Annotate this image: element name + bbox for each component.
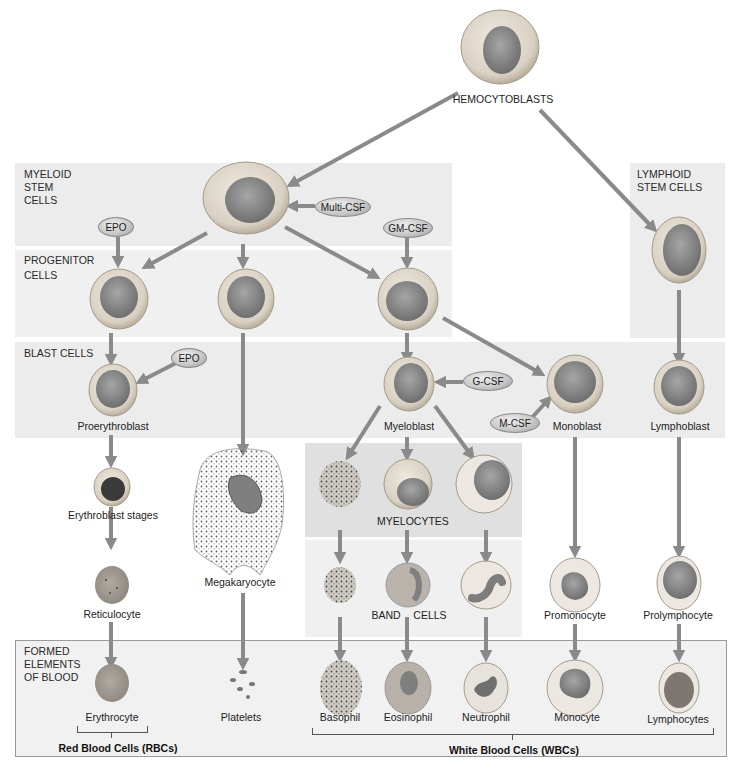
reticulocyte-label: Reticulocyte <box>83 608 140 620</box>
promonocyte-label: Promonocyte <box>544 609 606 621</box>
blast-cells-label: BLAST CELLS <box>24 347 93 360</box>
epo-progenitor-factor: EPO <box>98 217 134 237</box>
monoblast-label: Monoblast <box>553 420 601 432</box>
band-cells-label-left: BAND <box>371 609 400 621</box>
megakaryocyte-label: Megakaryocyte <box>204 576 275 588</box>
proerythroblast-label: Proerythroblast <box>77 420 148 432</box>
epo-blast-factor: EPO <box>171 348 207 368</box>
hemocytoblast-cell <box>461 10 539 84</box>
eosinophil-label: Eosinophil <box>384 711 432 723</box>
multi-csf-factor: Multi-CSF <box>315 197 371 217</box>
formed-elements-label: FORMED ELEMENTS OF BLOOD <box>24 645 81 684</box>
myeloblast-label: Myeloblast <box>384 420 434 432</box>
lymphocytes-label: Lymphocytes <box>647 713 708 725</box>
progenitor-label: PROGENITOR CELLS <box>24 253 94 283</box>
prolymphocyte-label: Prolymphocyte <box>643 609 712 621</box>
reticulocyte-cell <box>95 566 129 604</box>
erythroblast-cell <box>94 468 130 506</box>
megakaryocyte-cell <box>193 449 284 575</box>
myelocytes-label: MYELOCYTES <box>377 515 449 527</box>
promonocyte-cell <box>550 558 600 612</box>
myeloid-stem-label: MYELOID STEM CELLS <box>24 168 71 207</box>
rbc-bracket <box>77 726 148 733</box>
platelets-label: Platelets <box>221 711 261 723</box>
band-cells-label-right: CELLS <box>413 609 446 621</box>
wbc-group-label: White Blood Cells (WBCs) <box>449 744 579 756</box>
erythroblast-label: Erythroblast stages <box>68 509 158 521</box>
wbc-bracket <box>312 728 714 735</box>
lymphoblast-label: Lymphoblast <box>650 420 709 432</box>
neutrophil-label: Neutrophil <box>462 711 510 723</box>
gm-csf-factor: GM-CSF <box>383 218 433 238</box>
prolymphocyte-cell <box>657 556 701 610</box>
band-cell-panel <box>305 540 522 637</box>
formed-elements-panel <box>15 640 727 757</box>
erythrocyte-label: Erythrocyte <box>85 711 138 723</box>
basophil-label: Basophil <box>320 711 360 723</box>
rbc-bracket-tick <box>111 732 112 738</box>
m-csf-factor: M-CSF <box>490 413 540 433</box>
g-csf-factor: G-CSF <box>463 371 513 391</box>
monocyte-label: Monocyte <box>554 711 600 723</box>
rbc-group-label: Red Blood Cells (RBCs) <box>58 742 177 754</box>
wbc-bracket-tick <box>512 734 513 740</box>
hemocytoblasts-label: HEMOCYTOBLASTS <box>453 93 554 105</box>
lymphoid-stem-label: LYMPHOID STEM CELLS <box>637 168 702 194</box>
